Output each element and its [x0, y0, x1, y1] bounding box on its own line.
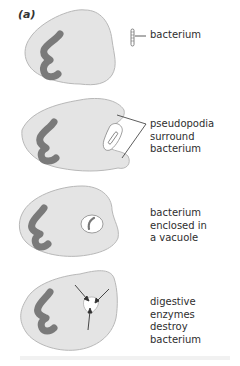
vacuole-icon: [81, 215, 103, 233]
stage-2-cell: [22, 98, 146, 171]
bacterium-icon: [131, 29, 146, 46]
stage-4-cell: [21, 271, 118, 351]
label-vacuole: bacterium enclosed in a vacuole: [150, 207, 207, 245]
stage-1-cell: [25, 10, 115, 85]
label-enzymes: digestive enzymes destroy bacterium: [150, 296, 240, 346]
label-bacterium: bacterium: [150, 29, 201, 42]
label-pseudopodia: pseudopodia surround bacterium: [150, 118, 214, 156]
stage-3-cell: [19, 186, 118, 256]
faint-caption-remnant: [20, 356, 230, 360]
